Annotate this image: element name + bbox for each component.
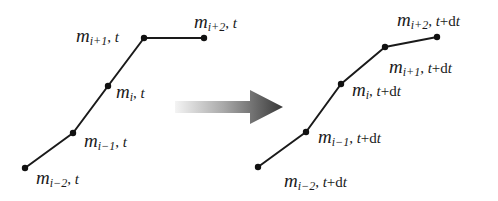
label-time-delta: +d [440, 13, 456, 29]
label-sep: , [428, 13, 436, 29]
node-before-i [105, 83, 111, 89]
label-var: m [194, 11, 208, 32]
label-before-i-1: mi−1, t [84, 131, 127, 150]
label-time-delta: +d [361, 130, 377, 146]
label-sep: , [369, 83, 377, 99]
label-subscript: i [366, 88, 369, 102]
label-var: m [76, 25, 90, 46]
label-subscript: i−1 [98, 139, 115, 153]
label-var: m [36, 167, 50, 188]
label-time: t [141, 85, 145, 101]
label-subscript: i−1 [332, 135, 349, 149]
label-time-t: t [343, 174, 347, 190]
node-after-i-2 [255, 164, 261, 170]
label-subscript: i+2 [208, 20, 225, 34]
label-var: m [389, 56, 403, 77]
label-sep: , [115, 134, 123, 150]
node-after-i+2 [434, 34, 440, 40]
label-subscript: i [130, 90, 133, 104]
label-sep: , [107, 29, 115, 45]
label-before-i-2: mi−2, t [36, 168, 79, 187]
label-var: m [352, 79, 366, 100]
label-time-delta: +d [327, 174, 343, 190]
label-sep: , [315, 174, 323, 190]
label-var: m [397, 9, 411, 30]
node-after-i [338, 81, 344, 87]
label-subscript: i+2 [411, 18, 428, 32]
label-after-i-2: mi−2, t+dt [284, 171, 347, 190]
label-var: m [284, 170, 298, 191]
label-sep: , [349, 130, 357, 146]
label-before-i+2: mi+2, t [194, 12, 237, 31]
label-before-i+1: mi+1, t [76, 26, 119, 45]
node-after-i+1 [382, 44, 388, 50]
label-time-delta: +d [432, 60, 448, 76]
label-time-t: t [377, 130, 381, 146]
label-time-t: t [456, 13, 460, 29]
label-time-delta: +d [381, 83, 397, 99]
node-before-i-1 [70, 130, 76, 136]
label-time: t [115, 29, 119, 45]
label-time: t [123, 134, 127, 150]
label-subscript: i−2 [298, 179, 315, 193]
label-time-t: t [448, 60, 452, 76]
label-time: t [233, 15, 237, 31]
label-after-i+2: mi+2, t+dt [397, 10, 460, 29]
label-after-i+1: mi+1, t+dt [389, 57, 452, 76]
label-after-i-1: mi−1, t+dt [318, 127, 381, 146]
label-time: t [75, 171, 79, 187]
label-var: m [318, 126, 332, 147]
label-subscript: i+1 [403, 65, 420, 79]
node-before-i+1 [141, 35, 147, 41]
label-var: m [116, 81, 130, 102]
label-time-t: t [397, 83, 401, 99]
polyline-evolution-diagram: mi+1, t mi+2, t mi, t mi−1, t mi−2, t mi… [0, 0, 498, 201]
label-after-i: mi, t+dt [352, 80, 401, 99]
label-subscript: i−2 [50, 176, 67, 190]
label-sep: , [420, 60, 428, 76]
node-after-i-1 [303, 129, 309, 135]
polyline-after [255, 34, 440, 170]
right-arrow-icon [175, 90, 283, 124]
label-sep: , [133, 85, 141, 101]
node-before-i+2 [201, 35, 207, 41]
label-var: m [84, 130, 98, 151]
label-before-i: mi, t [116, 82, 145, 101]
label-sep: , [225, 15, 233, 31]
node-before-i-2 [22, 165, 28, 171]
label-subscript: i+1 [90, 34, 107, 48]
label-sep: , [67, 171, 75, 187]
